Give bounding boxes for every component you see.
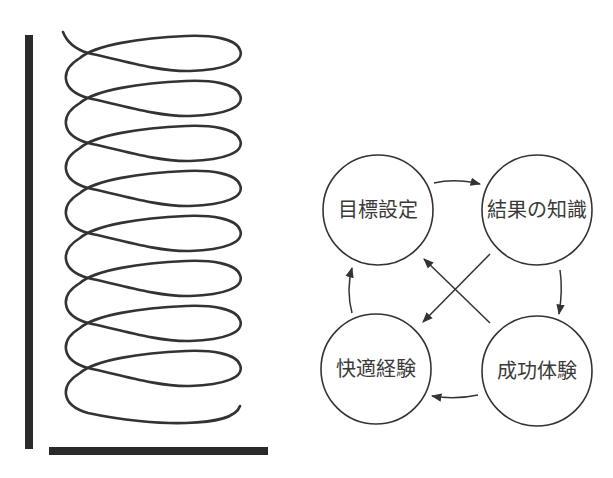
spiral-figure bbox=[25, 32, 268, 455]
node-success-experience: 成功体験 bbox=[482, 316, 592, 426]
diagram-canvas: 目標設定 結果の知識 成功体験 快適経験 bbox=[0, 0, 613, 478]
node-label: 快適経験 bbox=[336, 357, 416, 381]
vertical-axis-bar bbox=[25, 35, 33, 209]
node-label: 結果の知識 bbox=[487, 198, 587, 222]
arrow-success-to-comfort bbox=[432, 395, 478, 398]
arrow-success-to-goal bbox=[424, 259, 490, 323]
vertical-axis-bar-lower bbox=[25, 209, 33, 449]
node-label: 目標設定 bbox=[338, 198, 418, 222]
node-comfort-experience: 快適経験 bbox=[321, 314, 431, 424]
cycle-diagram: 目標設定 結果の知識 成功体験 快適経験 bbox=[321, 155, 592, 426]
node-goal-setting: 目標設定 bbox=[323, 155, 433, 265]
arrow-knowledge-to-success bbox=[559, 270, 561, 314]
node-knowledge-of-results: 結果の知識 bbox=[482, 155, 592, 265]
arrow-goal-to-knowledge bbox=[434, 181, 480, 184]
arrow-knowledge-to-comfort bbox=[423, 254, 490, 322]
horizontal-axis-bar bbox=[49, 447, 268, 455]
node-label: 成功体験 bbox=[497, 359, 577, 383]
arrow-comfort-to-goal bbox=[349, 268, 352, 313]
spiral-coil bbox=[63, 32, 241, 423]
